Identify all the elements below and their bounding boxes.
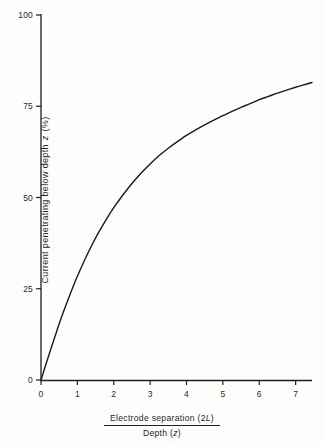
x-axis-title-numerator: Electrode separation (2L) <box>104 412 220 426</box>
y-axis-tick-label: 75 <box>23 101 33 111</box>
y-axis-tick-label: 100 <box>18 10 33 20</box>
x-axis-tick-label: 3 <box>148 389 153 399</box>
numerator-text: Electrode separation (2 <box>110 413 206 423</box>
x-axis-tick-label: 7 <box>293 389 298 399</box>
y-axis-title-pre: Current penetrating below depth <box>40 141 50 283</box>
x-axis-title-fraction: Electrode separation (2L) Depth (z) <box>104 412 220 440</box>
y-axis-tick-label: 0 <box>28 375 33 385</box>
numerator-close: ) <box>211 413 214 423</box>
x-axis-tick-label: 5 <box>220 389 225 399</box>
x-axis-tick-label: 2 <box>111 389 116 399</box>
y-axis-title-post: (%) <box>40 116 50 134</box>
x-axis-tick-label: 6 <box>257 389 262 399</box>
data-series-group <box>41 83 312 380</box>
x-axis-tick-label: 0 <box>39 389 44 399</box>
denominator-close: ) <box>178 428 181 438</box>
x-axis-tick-label: 4 <box>184 389 189 399</box>
chart-figure: Current penetrating below depth z (%) 02… <box>0 0 324 445</box>
x-axis-title: Electrode separation (2L) Depth (z) <box>0 412 324 440</box>
x-axis-title-denominator: Depth (z) <box>104 426 220 439</box>
y-axis-title: Current penetrating below depth z (%) <box>40 75 50 325</box>
data-line-current-penetration <box>41 83 312 380</box>
x-axis-tick-label: 1 <box>75 389 80 399</box>
y-axis-title-variable: z <box>40 134 50 141</box>
y-axis-tick-label: 25 <box>23 284 33 294</box>
y-axis-tick-label: 50 <box>23 193 33 203</box>
denominator-text: Depth ( <box>143 428 173 438</box>
